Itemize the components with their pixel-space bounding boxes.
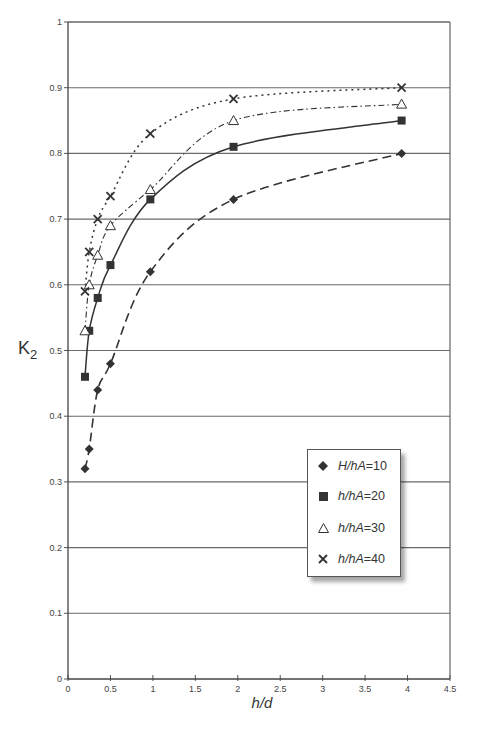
x-marker: [230, 95, 238, 103]
square-marker: [94, 294, 102, 302]
triangle-marker: [229, 116, 239, 125]
y-tick-label: 0: [57, 674, 62, 684]
x-tick-label: 3: [320, 684, 325, 694]
x-tick-label: 1: [150, 684, 155, 694]
x-tick-label: 4: [405, 684, 410, 694]
k2-vs-hd-chart: 00.10.20.30.40.50.60.70.80.9100.511.522.…: [0, 0, 477, 729]
square-marker: [146, 195, 154, 203]
x-tick-label: 2: [235, 684, 240, 694]
fit-curve: [85, 88, 402, 292]
data-markers: [80, 84, 407, 474]
y-tick-label: 0.8: [49, 148, 62, 158]
diamond-icon: [308, 461, 338, 471]
x-tick-label: 2.5: [274, 684, 287, 694]
diamond-marker: [93, 385, 102, 394]
legend-item: H/hA=10: [308, 456, 400, 476]
fit-curve: [85, 153, 402, 468]
legend-label: h/hA=20: [338, 489, 385, 503]
y-tick-label: 0.6: [49, 280, 62, 290]
y-tick-label: 0.7: [49, 214, 62, 224]
y-tick-label: 0.3: [49, 477, 62, 487]
square-marker: [398, 117, 406, 125]
y-tick-label: 1: [57, 17, 62, 27]
square-icon: [308, 492, 338, 501]
x-marker: [106, 192, 114, 200]
triangle-icon: [308, 523, 338, 533]
axes: 00.10.20.30.40.50.60.70.80.9100.511.522.…: [49, 17, 456, 694]
triangle-marker: [93, 250, 103, 259]
legend-item: h/hA=20: [308, 486, 400, 506]
legend-item: h/hA=40: [308, 549, 400, 569]
y-tick-label: 0.9: [49, 83, 62, 93]
x-cross-icon: [308, 554, 338, 564]
y-tick-label: 0.4: [49, 411, 62, 421]
legend-label: h/hA=30: [338, 521, 385, 535]
square-marker: [230, 143, 238, 151]
fit-curve: [85, 121, 402, 377]
x-tick-label: 3.5: [359, 684, 372, 694]
y-tick-label: 0.5: [49, 346, 62, 356]
y-tick-label: 0.1: [49, 608, 62, 618]
diamond-marker: [229, 195, 238, 204]
fitted-curves: [85, 88, 402, 469]
triangle-marker: [397, 99, 407, 108]
diamond-marker: [80, 464, 89, 473]
x-tick-label: 0.5: [104, 684, 117, 694]
diamond-marker: [397, 149, 406, 158]
x-marker: [146, 130, 154, 138]
square-marker: [81, 373, 89, 381]
legend: H/hA=10 h/hA=20 h/hA=30 h/hA=40: [307, 449, 401, 577]
triangle-marker: [145, 185, 155, 194]
y-tick-label: 0.2: [49, 543, 62, 553]
legend-label: h/hA=40: [338, 552, 385, 566]
fit-curve: [85, 104, 402, 331]
legend-label: H/hA=10: [338, 459, 387, 473]
x-tick-label: 0: [65, 684, 70, 694]
x-axis-title: h/d: [252, 694, 274, 711]
legend-item: h/hA=30: [308, 518, 400, 538]
square-marker: [106, 261, 114, 269]
diamond-marker: [106, 359, 115, 368]
triangle-marker: [105, 221, 115, 230]
diamond-marker: [85, 445, 94, 454]
y-axis-title: K2: [18, 338, 37, 362]
x-tick-label: 4.5: [444, 684, 457, 694]
x-tick-label: 1.5: [189, 684, 202, 694]
